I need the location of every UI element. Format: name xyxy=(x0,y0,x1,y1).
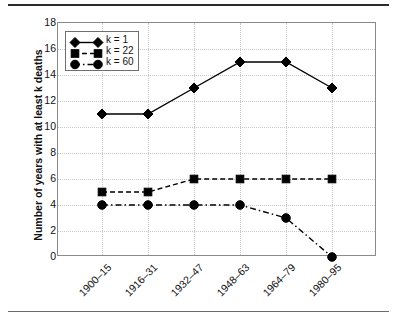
y-axis-tick-label: 14 xyxy=(26,69,56,79)
chart-figure: Number of years with at least k deaths 0… xyxy=(0,0,397,321)
legend-sample xyxy=(69,34,105,45)
legend-sample-glyph xyxy=(69,59,105,70)
circle-marker xyxy=(144,201,153,210)
diamond-marker xyxy=(143,109,153,119)
circle-marker xyxy=(236,201,245,210)
y-axis-tick-label: 0 xyxy=(26,251,56,261)
diamond-marker xyxy=(281,57,291,67)
legend-sample xyxy=(69,45,105,56)
circle-marker xyxy=(94,60,103,69)
y-axis-tick-label: 4 xyxy=(26,199,56,209)
series-3 xyxy=(98,201,337,262)
square-marker xyxy=(282,175,290,183)
diamond-marker xyxy=(189,83,199,93)
y-axis-tick-label: 18 xyxy=(26,17,56,27)
circle-marker xyxy=(328,253,337,262)
legend-label: k = 1 xyxy=(106,35,128,45)
legend-label: k = 22 xyxy=(106,46,134,56)
circle-marker xyxy=(98,201,107,210)
square-marker xyxy=(190,175,198,183)
circle-marker xyxy=(71,60,80,69)
square-marker xyxy=(98,188,106,196)
series-2 xyxy=(98,175,336,196)
series-line xyxy=(102,179,332,192)
y-axis-tick-label: 16 xyxy=(26,43,56,53)
circle-marker xyxy=(282,214,291,223)
legend-box: k = 1k = 22k = 60 xyxy=(65,31,139,71)
y-axis-tick-label: 10 xyxy=(26,121,56,131)
plot-area: k = 1k = 22k = 60 xyxy=(57,22,376,256)
top-horizontal-rule xyxy=(8,4,389,6)
y-axis-tick-label: 6 xyxy=(26,173,56,183)
circle-marker xyxy=(190,201,199,210)
legend-entry: k = 60 xyxy=(69,56,134,67)
series-line xyxy=(102,205,332,257)
diamond-marker xyxy=(235,57,245,67)
x-axis-tick-label: 1980–95 xyxy=(264,261,343,321)
legend-label: k = 60 xyxy=(106,57,134,67)
square-marker xyxy=(236,175,244,183)
square-marker xyxy=(328,175,336,183)
legend-sample xyxy=(69,56,105,67)
diamond-marker xyxy=(327,83,337,93)
legend-entry: k = 22 xyxy=(69,45,134,56)
diamond-marker xyxy=(97,109,107,119)
legend-entry: k = 1 xyxy=(69,34,134,45)
y-axis-tick-label: 8 xyxy=(26,147,56,157)
y-axis-tick-label: 12 xyxy=(26,95,56,105)
square-marker xyxy=(144,188,152,196)
y-axis-tick-label: 2 xyxy=(26,225,56,235)
